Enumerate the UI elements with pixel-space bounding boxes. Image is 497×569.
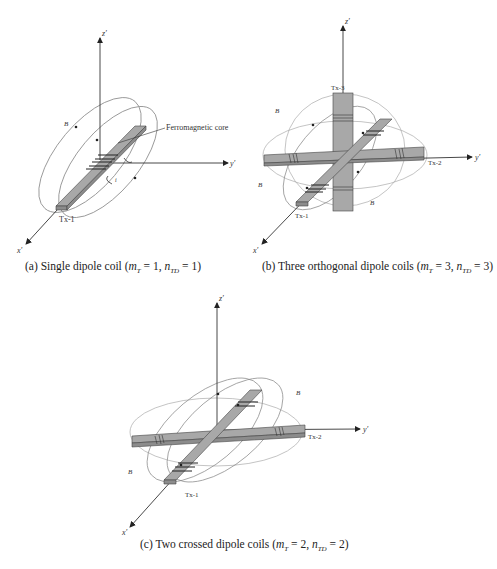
svg-text:z′: z′ [344, 17, 350, 26]
field-loop-outer [20, 81, 159, 229]
core-label: Ferromagnetic core [166, 123, 229, 132]
svg-text:B: B [275, 107, 280, 115]
svg-text:z′: z′ [218, 294, 224, 303]
y-axis-label: y′ [229, 159, 236, 168]
coil-label-tx3: Tx-3 [331, 84, 345, 92]
svg-text:B: B [128, 468, 133, 476]
svg-text:x′: x′ [121, 528, 128, 537]
coil-label-tx1: Tx-1 [295, 212, 309, 220]
caption-c: (c) Two crossed dipole coils (mT = 2, nT… [140, 538, 349, 553]
z-axis-label: z′ [101, 29, 107, 38]
svg-text:B: B [64, 120, 69, 128]
svg-text:y′: y′ [362, 425, 369, 434]
coil-label-tx2: Tx-2 [308, 433, 322, 441]
panel-a: Ferromagnetic core Tx-1 B i z′ y′ x′ [16, 29, 236, 255]
caption-b: (b) Three orthogonal dipole coils (mT = … [262, 260, 493, 275]
figure-diagram: Ferromagnetic core Tx-1 B i z′ y′ x′ Tx-… [0, 0, 497, 569]
svg-text:B: B [370, 199, 375, 207]
svg-text:y′: y′ [474, 153, 481, 162]
svg-text:x′: x′ [252, 246, 259, 255]
coil-label-tx1: Tx-1 [59, 215, 75, 224]
svg-text:B: B [258, 181, 263, 189]
panel-b: Tx-3 Tx-2 Tx-1 B B B z′ y′ x′ [252, 17, 481, 255]
coil-label-tx2: Tx-2 [428, 159, 442, 167]
svg-text:B: B [296, 389, 301, 397]
coil-label-tx1: Tx-1 [185, 491, 199, 499]
caption-a: (a) Single dipole coil (mT = 1, nTD = 1) [25, 260, 201, 275]
panel-c: Tx-2 Tx-1 B B z′ y′ x′ [121, 294, 369, 537]
svg-text:i: i [115, 177, 117, 183]
x-axis-label: x′ [16, 246, 23, 255]
